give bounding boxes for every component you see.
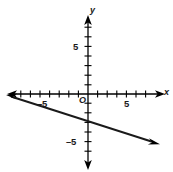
origin-label: O [79, 96, 86, 105]
graph-canvas [0, 0, 173, 172]
coordinate-plane-figure: x y O –5 5 5 –5 [0, 0, 173, 172]
y-tick-label-pos-five: 5 [73, 42, 78, 52]
x-tick-label-pos-five: 5 [124, 99, 129, 109]
x-tick-label-neg-five: –5 [37, 99, 47, 109]
x-axis-label: x [164, 88, 169, 97]
y-tick-label-neg-five: –5 [66, 137, 76, 147]
y-axis-label: y [90, 6, 95, 15]
